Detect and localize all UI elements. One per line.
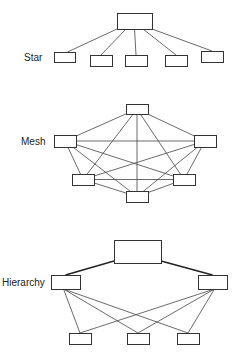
- hierarchy-root-node: [115, 241, 162, 264]
- hierarchy-mid-node: [52, 276, 81, 290]
- mesh-node: [127, 105, 149, 115]
- hierarchy-trunk-link: [66, 261, 115, 275]
- hierarchy-trunk-link: [161, 261, 213, 275]
- mesh-link: [65, 141, 137, 197]
- star-leaf-node: [55, 53, 76, 63]
- mesh-link: [65, 141, 184, 180]
- mesh-link: [137, 109, 184, 180]
- mesh-link: [137, 141, 205, 197]
- mesh-node: [127, 192, 149, 203]
- mesh-topology: [55, 105, 217, 203]
- hierarchy-leaf-node: [178, 334, 200, 345]
- star-label: Star: [24, 52, 43, 63]
- mesh-node: [195, 136, 217, 148]
- star-topology: [55, 14, 224, 67]
- star-link: [152, 29, 212, 51]
- star-leaf-node: [126, 56, 148, 67]
- star-link: [135, 29, 137, 55]
- hierarchy-leaf-node: [128, 334, 150, 345]
- star-leaf-node: [202, 52, 224, 63]
- mesh-link: [83, 109, 137, 180]
- star-link: [68, 29, 118, 52]
- star-link: [143, 29, 176, 55]
- hierarchy-branch-link: [64, 289, 81, 333]
- hierarchy-branch-link: [64, 289, 189, 333]
- mesh-node: [174, 175, 196, 186]
- topology-diagram: Star Mesh Hierarchy: [0, 0, 238, 353]
- mesh-node: [55, 136, 77, 148]
- star-hub-node: [118, 14, 153, 30]
- hierarchy-leaf-node: [70, 334, 92, 345]
- star-link: [101, 29, 126, 55]
- hierarchy-branch-link: [188, 289, 215, 333]
- mesh-node: [73, 175, 95, 186]
- hierarchy-topology: [52, 241, 228, 345]
- star-leaf-node: [91, 56, 113, 67]
- hierarchy-mid-node: [199, 276, 228, 290]
- star-leaf-node: [166, 56, 188, 67]
- hierarchy-label: Hierarchy: [2, 277, 45, 288]
- mesh-label: Mesh: [21, 136, 45, 147]
- hierarchy-branch-link: [138, 289, 215, 333]
